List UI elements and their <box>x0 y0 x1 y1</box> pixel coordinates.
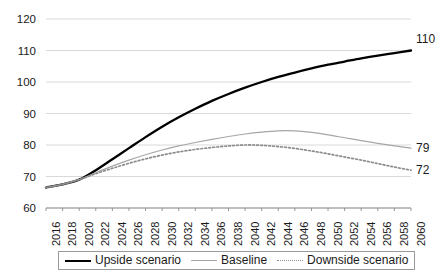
y-axis-tick-label: 120 <box>10 13 36 25</box>
x-axis-tick-label: 2046 <box>299 222 310 246</box>
line-chart: 60708090100110120 2016201820202022202420… <box>0 0 446 277</box>
x-axis-tick-label: 2056 <box>382 222 393 246</box>
y-axis-tick-label: 60 <box>10 202 36 214</box>
series-end-label-baseline: 79 <box>416 142 429 154</box>
x-axis-tick-label: 2050 <box>333 222 344 246</box>
legend-item-downside-scenario: Downside scenario <box>277 254 408 267</box>
x-axis-tick-label: 2022 <box>100 222 111 246</box>
x-axis-tick-label: 2018 <box>67 222 78 246</box>
y-axis-tick-label: 100 <box>10 76 36 88</box>
legend-item-baseline: Baseline <box>191 254 267 267</box>
x-axis-tick-label: 2040 <box>250 222 261 246</box>
y-axis-tick-label: 110 <box>10 45 36 57</box>
x-axis-tick-label: 2028 <box>150 222 161 246</box>
series-end-label-downside-scenario: 72 <box>416 164 429 176</box>
legend-label-downside-scenario: Downside scenario <box>307 254 408 267</box>
x-axis-tick-label: 2030 <box>167 222 178 246</box>
x-axis-tick-label: 2026 <box>133 222 144 246</box>
legend-line-dotted-icon <box>277 256 303 266</box>
x-axis-tick-label: 2052 <box>349 222 360 246</box>
x-axis-tick-label: 2060 <box>416 222 427 246</box>
x-axis-tick-label: 2058 <box>399 222 410 246</box>
x-axis-tick-label: 2054 <box>366 222 377 246</box>
x-axis-tick-label: 2038 <box>233 222 244 246</box>
y-axis-tick-label: 90 <box>10 108 36 120</box>
legend-label-baseline: Baseline <box>221 254 267 267</box>
y-axis-tick-label: 80 <box>10 139 36 151</box>
legend-line-solid-thick-icon <box>65 256 91 266</box>
x-axis-tick-label: 2024 <box>117 222 128 246</box>
legend-label-upside-scenario: Upside scenario <box>95 254 181 267</box>
series-line-upside-scenario <box>46 51 411 188</box>
x-axis-tick-label: 2020 <box>84 222 95 246</box>
x-axis-tick-label: 2016 <box>51 222 62 246</box>
chart-legend: Upside scenario Baseline Downside scenar… <box>58 251 415 270</box>
x-axis-tick-label: 2036 <box>216 222 227 246</box>
x-axis-tick-label: 2032 <box>183 222 194 246</box>
legend-item-upside-scenario: Upside scenario <box>65 254 181 267</box>
x-axis-tick-label: 2042 <box>266 222 277 246</box>
legend-line-solid-thin-icon <box>191 256 217 266</box>
x-axis-tick-label: 2034 <box>200 222 211 246</box>
x-axis-tick-label: 2048 <box>316 222 327 246</box>
x-axis-tick-label: 2044 <box>283 222 294 246</box>
y-axis-tick-label: 70 <box>10 171 36 183</box>
series-end-label-upside-scenario: 110 <box>416 33 435 45</box>
